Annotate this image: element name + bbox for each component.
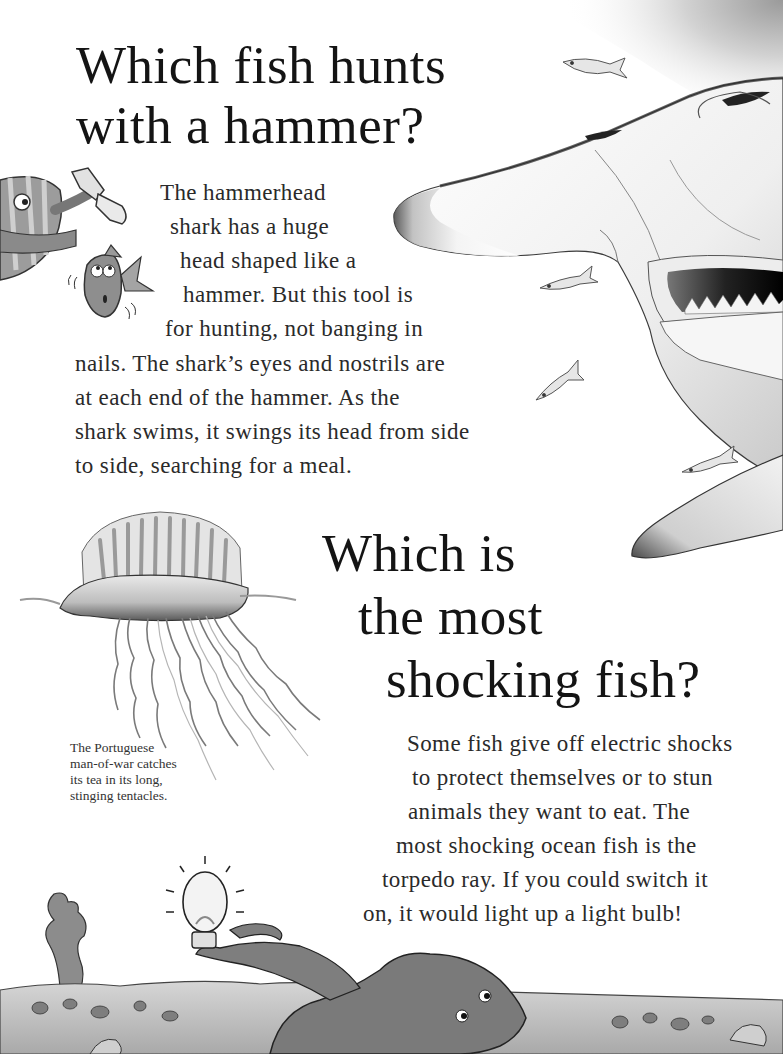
hammerhead-body-line: at each end of the hammer. As the <box>75 381 400 415</box>
heading-hammerhead-line-1: Which fish hunts <box>76 36 446 94</box>
man-of-war-caption-line: The Portuguese <box>70 740 154 756</box>
hammerhead-body-line: nails. The shark’s eyes and nostrils are <box>75 347 445 381</box>
heading-hammerhead-line-2: with a hammer? <box>76 96 424 154</box>
small-fish-3 <box>536 360 584 400</box>
shocking-body-line: torpedo ray. If you could switch it <box>382 863 708 897</box>
hammerhead-body-line: hammer. But this tool is <box>183 278 413 312</box>
heading-shocking-line-2: the most <box>358 587 543 645</box>
heading-shocking-line-3: shocking fish? <box>386 650 701 708</box>
shocking-body-line: to protect themselves or to stun <box>412 761 713 795</box>
shocking-body-line: most shocking ocean fish is the <box>396 829 697 863</box>
worried-fish-illustration <box>65 245 165 335</box>
light-bulb-icon <box>166 856 244 948</box>
shocking-body-line: animals they want to eat. The <box>408 795 690 829</box>
small-fish-1 <box>563 58 627 78</box>
man-of-war-caption-line: man-of-war catches <box>70 756 177 772</box>
hammerhead-body-line: shark has a huge <box>170 210 329 244</box>
hammerhead-body-line: shark swims, it swings its head from sid… <box>75 415 470 449</box>
small-fish-4 <box>682 446 738 472</box>
shocking-body-line: Some fish give off electric shocks <box>407 727 733 761</box>
man-of-war-caption-line: its tea in its long, <box>70 772 163 788</box>
hammerhead-body-line: head shaped like a <box>180 244 356 278</box>
heading-shocking-line-1: Which is <box>322 524 516 582</box>
man-of-war-caption-line: stinging tentacles. <box>70 788 167 804</box>
hammerhead-body-line: The hammerhead <box>160 176 326 210</box>
shocking-body-line: on, it would light up a light bulb! <box>363 897 682 931</box>
small-fish-2 <box>540 266 598 289</box>
seaweed <box>46 893 86 990</box>
hammerhead-body-line: for hunting, not banging in <box>165 312 423 346</box>
hammerhead-body-line: to side, searching for a meal. <box>75 449 352 483</box>
